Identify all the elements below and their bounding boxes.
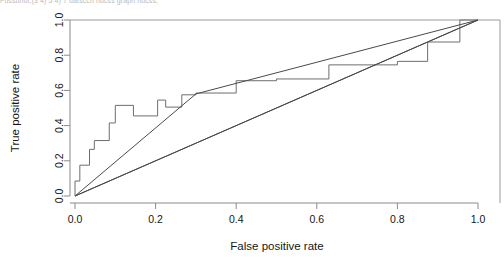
x-axis-ticks: 0.00.20.40.60.81.0 [68, 203, 486, 225]
y-tick-label: 0.4 [53, 118, 65, 133]
x-axis-title: False positive rate [230, 240, 323, 252]
x-tick-label: 1.0 [471, 213, 486, 225]
axis-lines [70, 20, 500, 203]
series-chance-diagonal [75, 20, 478, 196]
y-tick-label: 0.0 [53, 189, 65, 204]
data-series-group [75, 20, 478, 196]
y-tick-label: 1.0 [53, 13, 65, 28]
x-tick-label: 0.0 [68, 213, 83, 225]
roc-plot-svg: 0.00.20.40.60.81.0 0.00.20.40.60.81.0 Fa… [0, 0, 504, 265]
y-tick-label: 0.6 [53, 83, 65, 98]
x-tick-label: 0.6 [309, 213, 324, 225]
x-tick-label: 0.2 [148, 213, 163, 225]
y-tick-label: 0.8 [53, 48, 65, 63]
y-tick-label: 0.2 [53, 153, 65, 168]
x-tick-label: 0.4 [229, 213, 244, 225]
plot-area: 0.00.20.40.60.81.0 0.00.20.40.60.81.0 Fa… [0, 0, 504, 265]
roc-chart-screenshot: Fussunut,(3 4) 5 4) 7 uatsccn nucss grap… [0, 0, 504, 265]
x-tick-label: 0.8 [390, 213, 405, 225]
y-axis-title: True positive rate [9, 64, 21, 152]
y-axis-ticks: 0.00.20.40.60.81.0 [53, 13, 70, 204]
